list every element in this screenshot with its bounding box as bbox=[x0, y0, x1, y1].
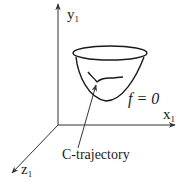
trajectory-label: C-trajectory bbox=[62, 147, 130, 162]
surface-label: f = 0 bbox=[128, 90, 159, 108]
z-axis-label: z1 bbox=[21, 161, 32, 179]
bowl-rim bbox=[73, 46, 147, 60]
x-axis-label: x1 bbox=[163, 106, 175, 124]
y-axis-label: y1 bbox=[67, 6, 79, 24]
coordinate-diagram: y1 x1 z1 f = 0 C-trajectory bbox=[0, 0, 187, 189]
z-axis bbox=[12, 125, 58, 173]
c-trajectory-curve bbox=[88, 72, 123, 82]
trajectory-leader-line bbox=[78, 85, 96, 148]
